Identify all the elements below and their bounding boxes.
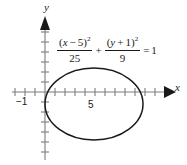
fraction-1-numerator: (x−5)2 xyxy=(57,36,92,51)
variable-x: x xyxy=(63,36,68,48)
ellipse-figure: y x −1 5 (x−5)2 25 + (y+1)2 9 = 1 xyxy=(0,0,187,165)
plus-operator-inner: + xyxy=(117,36,123,48)
plot-canvas xyxy=(0,0,187,165)
minus-operator: − xyxy=(70,36,76,48)
equation-rhs: 1 xyxy=(151,45,157,56)
tick-label-neg-one: −1 xyxy=(16,97,27,107)
ellipse-curve xyxy=(45,68,143,140)
exponent-2: 2 xyxy=(87,35,91,43)
x-axis-label: x xyxy=(175,82,180,93)
y-axis-label: y xyxy=(44,2,49,13)
fraction-2-denominator: 9 xyxy=(120,51,126,65)
fraction-2-numerator: (y+1)2 xyxy=(105,36,140,51)
tick-label-five: 5 xyxy=(88,100,94,110)
exponent-2: 2 xyxy=(135,35,139,43)
y-axis-arrow-icon xyxy=(40,16,50,30)
equals-operator: = xyxy=(143,45,149,56)
fraction-term-2: (y+1)2 9 xyxy=(105,36,140,64)
fraction-term-1: (x−5)2 25 xyxy=(57,36,92,64)
variable-y: y xyxy=(110,36,115,48)
fraction-1-denominator: 25 xyxy=(69,51,80,65)
plus-operator: + xyxy=(95,45,101,56)
equation-annotation: (x−5)2 25 + (y+1)2 9 = 1 xyxy=(56,36,157,64)
